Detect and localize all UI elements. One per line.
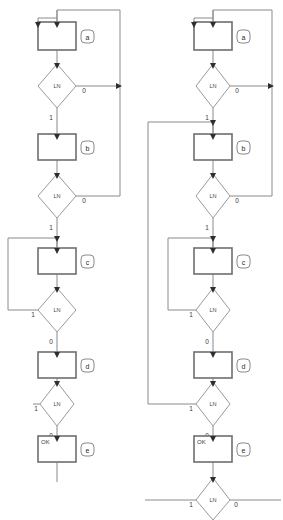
node-right-decision-c[interactable]: LN 1 0 bbox=[189, 287, 230, 345]
tag-label-d: d bbox=[86, 363, 90, 370]
decision-c-true-label: 1 bbox=[189, 311, 193, 318]
decision-b-text: LN bbox=[53, 193, 60, 199]
tag-label-d: d bbox=[242, 363, 246, 370]
decision-b-false-label: 0 bbox=[235, 197, 239, 204]
decision-b-true-label: 1 bbox=[49, 224, 53, 231]
tag-label-c: c bbox=[242, 259, 246, 266]
node-right-a[interactable]: a bbox=[191, 22, 250, 50]
decision-e-text: LN bbox=[209, 497, 216, 503]
decision-a-false-label: 0 bbox=[82, 87, 86, 94]
node-right-decision-a[interactable]: LN 0 1 bbox=[196, 63, 274, 121]
edge-r-return-to-a bbox=[213, 10, 272, 22]
decision-e-false-label: 0 bbox=[234, 501, 238, 508]
edge-r-dc-to-c bbox=[168, 238, 213, 248]
decision-c-text: LN bbox=[53, 307, 60, 313]
node-right-e[interactable]: e OK bbox=[194, 436, 250, 462]
flowchart-diagram: a LN 0 1 b LN 0 1 bbox=[0, 0, 283, 520]
node-right-b[interactable]: b bbox=[194, 120, 250, 160]
arrowhead-da-false bbox=[116, 83, 122, 89]
node-right-decision-e[interactable]: LN 1 0 bbox=[189, 477, 238, 520]
arrowhead-r-da-false bbox=[268, 83, 274, 89]
tag-label-b: b bbox=[242, 145, 246, 152]
decision-a-text: LN bbox=[209, 83, 216, 89]
decision-d-true-label: 1 bbox=[189, 405, 193, 412]
decision-a-true-label: 1 bbox=[49, 114, 53, 121]
arrowhead-c-loop-entry bbox=[54, 236, 60, 242]
tag-label-a: a bbox=[86, 34, 90, 41]
node-right-d[interactable]: d bbox=[194, 352, 250, 378]
arrowhead-c-loop-entry bbox=[210, 236, 216, 242]
decision-c-text: LN bbox=[209, 307, 216, 313]
edge-r-dd-to-b bbox=[148, 122, 213, 134]
node-left-e[interactable]: e OK bbox=[38, 436, 94, 462]
tag-label-c: c bbox=[86, 259, 90, 266]
decision-a-false-label: 0 bbox=[235, 87, 239, 94]
tag-label-e: e bbox=[86, 447, 90, 454]
tag-label-a: a bbox=[242, 34, 246, 41]
decision-d-true-label: 1 bbox=[34, 405, 38, 412]
decision-c-false-label: 0 bbox=[49, 338, 53, 345]
node-left-decision-b[interactable]: LN 0 1 bbox=[38, 173, 86, 231]
decision-b-true-label: 1 bbox=[205, 224, 209, 231]
node-right-c[interactable]: c bbox=[194, 236, 250, 274]
node-right-decision-b[interactable]: LN 0 1 bbox=[196, 173, 239, 231]
node-left-decision-a[interactable]: LN 0 1 bbox=[38, 63, 122, 121]
node-left-b[interactable]: b bbox=[38, 134, 94, 160]
tag-label-b: b bbox=[86, 145, 90, 152]
arrowhead-b-loop-entry bbox=[210, 120, 216, 126]
decision-d-text: LN bbox=[53, 401, 60, 407]
node-left-a[interactable]: a bbox=[35, 22, 94, 50]
tag-label-e: e bbox=[242, 447, 246, 454]
decision-c-false-label: 0 bbox=[205, 338, 209, 345]
edge-c-loop-top bbox=[8, 238, 57, 248]
node-left-decision-d[interactable]: LN 1 0 bbox=[34, 381, 74, 439]
decision-c-true-label: 1 bbox=[31, 311, 35, 318]
decision-e-true-label: 1 bbox=[189, 501, 193, 508]
node-left-decision-c[interactable]: LN 1 0 bbox=[31, 287, 76, 345]
decision-b-text: LN bbox=[209, 193, 216, 199]
node-left-d[interactable]: d bbox=[38, 352, 94, 378]
decision-b-false-label: 0 bbox=[82, 197, 86, 204]
left-flowchart: a LN 0 1 b LN 0 1 bbox=[8, 10, 122, 482]
decision-a-text: LN bbox=[53, 83, 60, 89]
edge-return-to-a bbox=[57, 10, 120, 22]
right-flowchart: a LN 0 1 b LN 0 1 bbox=[145, 10, 281, 520]
node-left-c[interactable]: c bbox=[38, 236, 94, 274]
process-e-ok-text: OK bbox=[197, 439, 206, 445]
node-right-decision-d[interactable]: LN 1 0 bbox=[189, 381, 230, 439]
decision-a-true-label: 1 bbox=[205, 114, 209, 121]
decision-d-text: LN bbox=[209, 401, 216, 407]
process-e-ok-text: OK bbox=[41, 439, 50, 445]
